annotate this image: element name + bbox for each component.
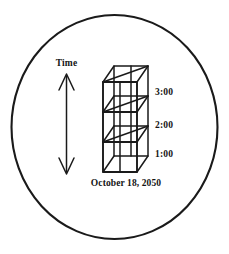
figure-svg: Time [0, 0, 229, 254]
date-caption: October 18, 2050 [91, 178, 161, 188]
tick-label-2-00: 2:00 [155, 120, 173, 130]
tick-label-3-00: 3:00 [155, 87, 173, 97]
time-axis-label: Time [56, 58, 78, 68]
figure-canvas: Time [0, 0, 229, 254]
tick-label-1-00: 1:00 [155, 149, 173, 159]
